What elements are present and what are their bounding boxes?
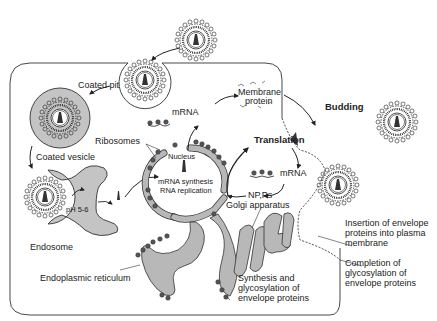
label-ph: pH 5-6 [66, 206, 89, 214]
endosome [48, 166, 118, 236]
label-synthesis-2: glycosylation of [238, 283, 300, 293]
label-mrna-right: mRNA [280, 168, 307, 178]
label-coated-pit: Coated pit [78, 80, 119, 90]
virion-free-top [175, 19, 217, 61]
label-mrna-top: mRNA [172, 107, 199, 117]
label-coated-vesicle: Coated vesicle [36, 152, 95, 162]
label-endosome: Endosome [30, 242, 73, 252]
label-membrane-protein-2: protein [245, 96, 273, 106]
label-translation: Translation [254, 135, 305, 145]
label-synthesis-1: Synthesis and [238, 273, 295, 283]
label-insertion-1: Insertion of envelope [345, 218, 429, 228]
virion-coated-pit [124, 59, 166, 101]
label-insertion-3: membrane [345, 238, 388, 248]
label-er: Endoplasmic reticulum [40, 273, 131, 283]
label-insertion-2: proteins into plasma [345, 228, 426, 238]
label-nucleus: Nucleus [168, 153, 195, 161]
label-golgi: Golgi apparatus [226, 200, 290, 210]
label-completion-3: envelope proteins [345, 278, 416, 288]
label-completion-1: Completion of [345, 258, 401, 268]
polysome-right [250, 170, 274, 178]
virion-released [376, 101, 418, 143]
label-npps: NP,Ps [248, 190, 272, 200]
label-ribosomes: Ribosomes [95, 136, 140, 146]
golgi-apparatus [234, 213, 294, 277]
label-budding: Budding [325, 102, 364, 112]
virion-budding [317, 164, 359, 206]
label-synthesis-3: envelope proteins [238, 293, 309, 303]
label-completion-2: glycosylation of [345, 268, 407, 278]
label-mrna-synthesis: mRNA synthesis [158, 178, 213, 186]
endoplasmic-reticulum [142, 222, 205, 296]
label-rna-replication: RNA replication [160, 187, 212, 195]
polysome-top [148, 120, 170, 127]
